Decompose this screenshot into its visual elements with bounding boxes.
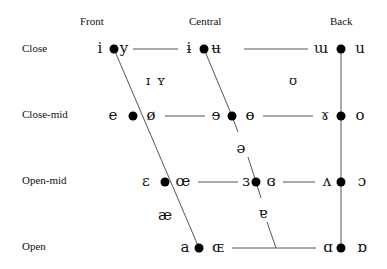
- vowel-turned-m: ɯ: [314, 41, 328, 56]
- row-label-open-mid: Open-mid: [22, 174, 67, 186]
- vowel-small-cap-y: ʏ: [157, 74, 166, 87]
- vowel-reversed-epsilon: ɜ: [242, 174, 250, 189]
- row-label-close-mid: Close-mid: [22, 108, 68, 120]
- vowel-barred-u: ʉ: [211, 41, 221, 56]
- row-label-close: Close: [22, 42, 47, 54]
- column-header-front: Front: [80, 15, 104, 27]
- vowel-upsilon: ʊ: [289, 74, 297, 87]
- vowel-open-o: ɔ: [358, 174, 366, 189]
- vowel-dot: [110, 45, 119, 54]
- column-header-central: Central: [189, 15, 221, 27]
- vowel-closed-reversed-epsilon: ɞ: [266, 174, 275, 189]
- vowel-dot: [200, 45, 209, 54]
- vowel-y: y: [120, 41, 128, 56]
- vowel-u: u: [355, 41, 365, 56]
- vowel-barred-o: ɵ: [245, 108, 254, 123]
- chart-lines: [0, 0, 387, 269]
- vowel-small-cap-i: ɪ: [146, 74, 150, 87]
- vowel-dot: [252, 178, 261, 187]
- vowel-barred-i: ɨ: [187, 41, 192, 56]
- vowel-i: i: [98, 41, 103, 56]
- central-line-bottom: [267, 222, 276, 248]
- vowel-reversed-e: ɘ: [212, 108, 221, 123]
- column-header-back: Back: [330, 15, 353, 27]
- vowel-dot: [195, 244, 204, 253]
- vowel-o-slash: ø: [146, 108, 155, 123]
- vowel-turned-script-a: ɒ: [357, 240, 367, 255]
- vowel-dot: [337, 112, 346, 121]
- row-label-open: Open: [22, 240, 46, 252]
- vowel-e: e: [109, 108, 118, 123]
- vowel-epsilon: ɛ: [142, 174, 150, 189]
- vowel-oe: œ: [176, 174, 191, 189]
- ipa-vowel-chart: Front Central Back Close Close-mid Open-…: [0, 0, 387, 269]
- vowel-dot: [337, 45, 346, 54]
- vowel-script-a: ɑ: [323, 240, 333, 255]
- vowel-ash: æ: [158, 208, 172, 223]
- vowel-dot: [161, 178, 170, 187]
- vowel-dot: [228, 112, 237, 121]
- vowel-o: o: [355, 108, 364, 123]
- vowel-dot: [337, 244, 346, 253]
- vowel-small-cap-oe: ɶ: [212, 240, 224, 255]
- vowel-dot: [337, 178, 346, 187]
- vowel-dot: [129, 112, 138, 121]
- vowel-rams-horn: ɤ: [321, 108, 329, 123]
- vowel-turned-a: ɐ: [259, 206, 268, 221]
- vowel-a: a: [181, 240, 190, 255]
- vowel-schwa: ə: [237, 141, 246, 156]
- vowel-turned-v: ʌ: [323, 174, 331, 189]
